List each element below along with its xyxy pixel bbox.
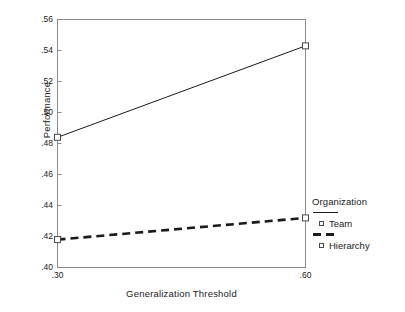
data-point-marker bbox=[55, 134, 61, 140]
data-point-marker bbox=[303, 43, 309, 49]
legend-label-team: Team bbox=[329, 217, 352, 230]
legend-entry-hierarchy[interactable]: Hierarchy bbox=[312, 239, 405, 252]
series-line-hierarchy bbox=[58, 218, 306, 240]
legend-swatch-team bbox=[313, 208, 339, 217]
legend: Organization Team Hierarchy bbox=[312, 196, 405, 252]
dashed-line-icon bbox=[313, 233, 338, 236]
data-point-marker bbox=[303, 215, 309, 221]
legend-label-hierarchy: Hierarchy bbox=[329, 239, 370, 252]
series-line-team bbox=[58, 46, 306, 137]
open-square-icon bbox=[319, 243, 324, 248]
series-canvas bbox=[0, 0, 405, 312]
solid-line-icon bbox=[313, 212, 338, 213]
data-point-marker bbox=[55, 237, 61, 243]
chart-figure: Performance Generalization Threshold .56… bbox=[0, 0, 405, 312]
legend-entry-team[interactable]: Team bbox=[312, 217, 405, 230]
legend-title: Organization bbox=[312, 196, 405, 208]
open-square-icon bbox=[319, 221, 324, 226]
legend-swatch-hierarchy bbox=[313, 230, 339, 239]
